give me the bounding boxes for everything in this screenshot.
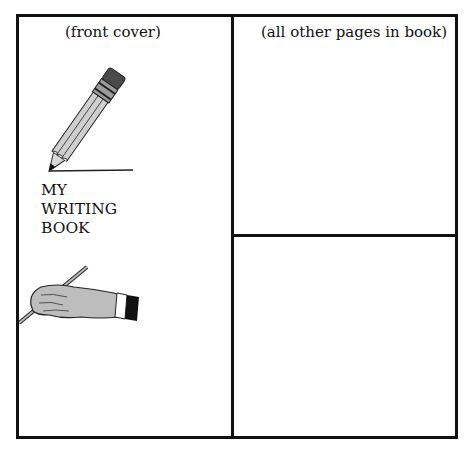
title-line-3: BOOK [41,219,117,238]
pencil-icon [41,59,141,179]
inner-page-panel-top [234,17,455,234]
book-title: MY WRITING BOOK [41,181,117,238]
inner-pages-caption: (all other pages in book) [261,23,447,41]
title-line-2: WRITING [41,200,117,219]
front-cover-caption: (front cover) [65,23,161,41]
writing-hand-icon [19,265,144,325]
title-line-1: MY [41,181,117,200]
inner-page-panel-bottom [234,237,455,436]
booklet-template: (front cover) MY [16,14,458,439]
front-cover-panel: (front cover) MY [19,17,231,436]
